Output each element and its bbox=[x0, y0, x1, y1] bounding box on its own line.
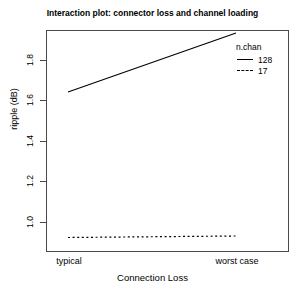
y-tick-label-1-8: 1.8 bbox=[25, 47, 35, 73]
chart-container: Interaction plot: connector loss and cha… bbox=[0, 0, 305, 295]
legend-swatch-dashed-icon bbox=[236, 66, 254, 75]
legend-label-17: 17 bbox=[254, 66, 267, 76]
legend-item-128: 128 bbox=[236, 54, 298, 65]
y-axis-label: ripple (dB) bbox=[9, 59, 19, 159]
legend-label-128: 128 bbox=[254, 55, 272, 65]
chart-title: Interaction plot: connector loss and cha… bbox=[0, 8, 305, 18]
y-tick-label-1-4: 1.4 bbox=[25, 128, 35, 154]
x-tick-label-worst-case: worst case bbox=[206, 256, 268, 266]
y-tick-label-1-6: 1.6 bbox=[25, 87, 35, 113]
y-tick-mark-1-4 bbox=[40, 141, 46, 142]
y-tick-mark-1-8 bbox=[40, 60, 46, 61]
legend-swatch-solid-icon bbox=[236, 55, 254, 64]
y-tick-mark-1-6 bbox=[40, 100, 46, 101]
y-tick-mark-1-0 bbox=[40, 222, 46, 223]
y-tick-label-1-2: 1.2 bbox=[25, 168, 35, 194]
x-tick-label-typical: typical bbox=[40, 256, 98, 266]
y-tick-label-1-0: 1.0 bbox=[25, 209, 35, 235]
x-axis-label: Connection Loss bbox=[0, 272, 305, 283]
y-tick-mark-1-2 bbox=[40, 181, 46, 182]
legend-item-17: 17 bbox=[236, 65, 298, 76]
legend-title: n.chan bbox=[236, 42, 298, 52]
legend: n.chan 128 17 bbox=[236, 42, 298, 76]
